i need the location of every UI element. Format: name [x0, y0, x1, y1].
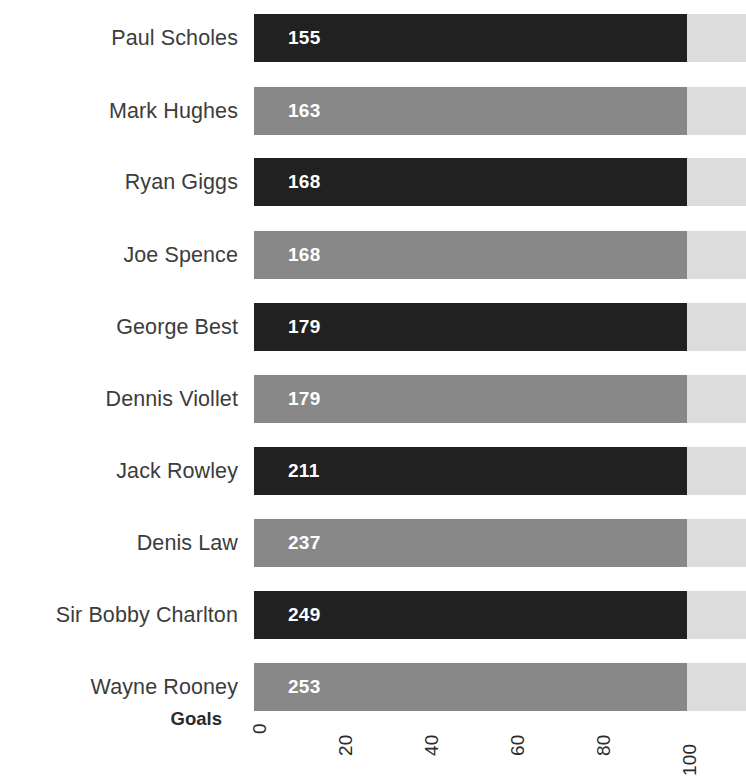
x-axis-tick-label: 0: [249, 723, 271, 734]
bar-value-label: 168: [288, 158, 321, 206]
x-axis-tick-label: 60: [507, 734, 529, 756]
bar-value-label: 179: [288, 375, 321, 423]
x-axis-title: Goals: [0, 706, 222, 732]
bar-row[interactable]: Dennis Viollet179: [0, 375, 746, 423]
bar-value-label: 253: [288, 663, 321, 711]
bar-row[interactable]: Paul Scholes155: [0, 14, 746, 62]
bar-row[interactable]: Mark Hughes163: [0, 87, 746, 135]
x-axis-tick-label: 20: [335, 734, 357, 756]
bar-row[interactable]: Jack Rowley211: [0, 447, 746, 495]
category-label: George Best: [0, 303, 238, 351]
x-axis-tick-label: 100: [679, 744, 701, 776]
bar-row[interactable]: Ryan Giggs168: [0, 158, 746, 206]
category-label: Denis Law: [0, 519, 238, 567]
x-axis-tick-label: 80: [593, 734, 615, 756]
category-label: Paul Scholes: [0, 14, 238, 62]
bar-value-label: 168: [288, 231, 321, 279]
category-label: Jack Rowley: [0, 447, 238, 495]
category-label: Sir Bobby Charlton: [0, 591, 238, 639]
bar-value-label: 163: [288, 87, 321, 135]
bar-chart: Paul Scholes155Mark Hughes163Ryan Giggs1…: [0, 0, 746, 779]
category-label: Wayne Rooney: [0, 663, 238, 711]
chart-page: Paul Scholes155Mark Hughes163Ryan Giggs1…: [0, 0, 746, 779]
bar-value-label: 155: [288, 14, 321, 62]
bar-value-label: 249: [288, 591, 321, 639]
x-axis-tick-label: 40: [421, 734, 443, 756]
category-label: Mark Hughes: [0, 87, 238, 135]
category-label: Joe Spence: [0, 231, 238, 279]
bar-value-label: 179: [288, 303, 321, 351]
bar-row[interactable]: Joe Spence168: [0, 231, 746, 279]
category-label: Ryan Giggs: [0, 158, 238, 206]
bar-row[interactable]: Denis Law237: [0, 519, 746, 567]
bar-row[interactable]: George Best179: [0, 303, 746, 351]
bar-value-label: 237: [288, 519, 321, 567]
category-label: Dennis Viollet: [0, 375, 238, 423]
x-axis: Goals 020406080100: [0, 706, 746, 779]
bar-value-label: 211: [288, 447, 320, 495]
bar-row[interactable]: Sir Bobby Charlton249: [0, 591, 746, 639]
bar-row[interactable]: Wayne Rooney253: [0, 663, 746, 711]
